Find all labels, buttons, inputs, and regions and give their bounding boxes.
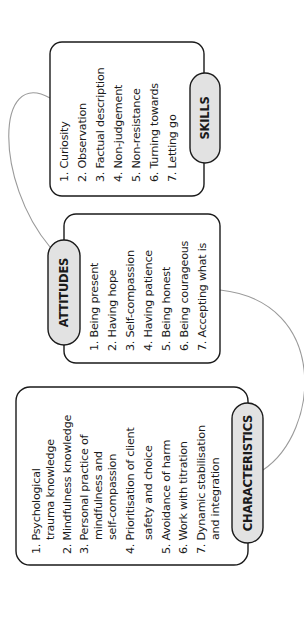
skills-title: SKILLS bbox=[198, 96, 212, 139]
skills-item: 3. Factual description bbox=[94, 67, 107, 182]
attitudes-item: 4. Having patience bbox=[142, 250, 155, 351]
skills-item: 1. Curiosity bbox=[58, 121, 71, 182]
characteristics-line: 5. Avoidance of harm bbox=[160, 440, 173, 554]
attitudes-title: ATTITUDES bbox=[57, 258, 71, 327]
skills-item: 4. Non-judgement bbox=[112, 84, 125, 182]
characteristics-line: self-compassion bbox=[106, 454, 119, 540]
skills-box bbox=[50, 42, 204, 196]
characteristics-title: CHARACTERISTICS bbox=[241, 415, 255, 531]
skills-item: 7. Letting go bbox=[166, 114, 179, 182]
characteristics-line: 2. Mindfulness knowledge bbox=[61, 414, 74, 554]
skills-item: 2. Observation bbox=[76, 103, 89, 182]
mindfulness-framework-diagram: SKILLS 1. Curiosity 2. Observation 3. Fa… bbox=[0, 0, 304, 622]
attitudes-item: 5. Being honest bbox=[160, 266, 173, 351]
characteristics-line: trauma knowledge bbox=[44, 439, 57, 540]
attitudes-item: 1. Being present bbox=[88, 262, 101, 351]
skills-group: SKILLS 1. Curiosity 2. Observation 3. Fa… bbox=[50, 42, 220, 196]
characteristics-line: safety and choice bbox=[142, 445, 155, 540]
skills-item: 5. Non-resistance bbox=[130, 88, 143, 182]
attitudes-group: ATTITUDES 1. Being present 2. Having hop… bbox=[48, 214, 220, 363]
characteristics-line: and integration bbox=[209, 458, 222, 540]
characteristics-line: mindfulness and bbox=[92, 451, 105, 540]
characteristics-line: 4. Prioritisation of client bbox=[124, 427, 137, 554]
attitudes-item: 7. Accepting what is bbox=[196, 242, 209, 351]
characteristics-line: 6. Work with titration bbox=[177, 441, 190, 554]
attitudes-item: 6. Being courageous bbox=[178, 240, 191, 351]
rotated-canvas: SKILLS 1. Curiosity 2. Observation 3. Fa… bbox=[9, 42, 304, 565]
attitudes-item: 3. Self-compassion bbox=[124, 250, 137, 351]
characteristics-line: 7. Dynamic stabilisation bbox=[195, 425, 208, 554]
characteristics-line: 3. Personal practice of bbox=[78, 434, 91, 554]
characteristics-line: 1. Psychological bbox=[30, 468, 43, 554]
characteristics-group: CHARACTERISTICS 1. Psychological trauma … bbox=[16, 387, 263, 565]
attitudes-item: 2. Having hope bbox=[106, 269, 119, 351]
skills-item: 6. Turning towards bbox=[148, 83, 161, 182]
connector-skills-attitudes bbox=[9, 93, 50, 247]
